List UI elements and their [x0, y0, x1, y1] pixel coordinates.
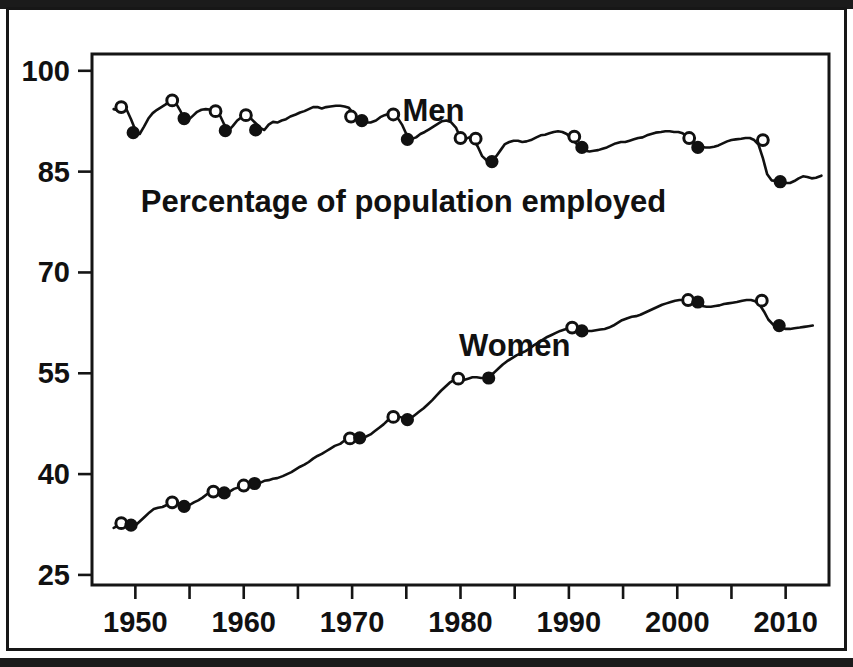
cycle-peak-marker: [455, 133, 466, 144]
cycle-peak-marker: [241, 110, 252, 121]
annotation-percentage-of-population-employed: Percentage of population employed: [141, 184, 666, 219]
cycle-peak-marker: [388, 109, 399, 120]
cycle-peak-marker: [684, 133, 695, 144]
y-axis-tick-label: 25: [38, 559, 70, 591]
cycle-trough-marker: [692, 142, 703, 153]
cycle-trough-marker: [402, 134, 413, 145]
cycle-peak-marker: [757, 135, 768, 146]
cycle-trough-marker: [483, 372, 494, 383]
y-axis-tick-label: 55: [38, 357, 70, 389]
cycle-trough-marker: [219, 487, 230, 498]
cycle-trough-marker: [354, 432, 365, 443]
cycle-trough-marker: [250, 124, 261, 135]
y-axis-tick-label: 40: [38, 458, 70, 490]
cycle-trough-marker: [576, 142, 587, 153]
cycle-peak-marker: [569, 131, 580, 142]
x-axis-tick-label: 2010: [753, 606, 818, 638]
axis-tick-layer: [78, 71, 786, 599]
employment-rate-line-chart: 1008570554025 19501960197019801990200020…: [0, 0, 853, 667]
cycle-trough-marker: [576, 325, 587, 336]
x-axis-tick-labels: 1950196019701980199020002010: [103, 606, 818, 638]
cycle-peak-marker: [167, 497, 178, 508]
cycle-trough-marker: [125, 520, 136, 531]
x-axis-tick-label: 1950: [103, 606, 168, 638]
x-axis-tick-label: 1960: [211, 606, 276, 638]
series-label-men: Men: [402, 93, 464, 128]
cycle-trough-marker: [128, 127, 139, 138]
cycle-trough-marker: [179, 113, 190, 124]
cycle-peak-marker: [208, 486, 219, 497]
x-axis-tick-label: 1970: [320, 606, 385, 638]
x-axis-tick-label: 2000: [645, 606, 710, 638]
x-axis-tick-label: 1990: [537, 606, 602, 638]
series-label-women: Women: [459, 328, 570, 363]
cycle-peak-marker: [756, 295, 767, 306]
cycle-trough-marker: [775, 176, 786, 187]
cycle-trough-marker: [220, 125, 231, 136]
cycle-marker-layer: [116, 95, 786, 531]
cycle-trough-marker: [356, 115, 367, 126]
cycle-peak-marker: [167, 95, 178, 106]
cycle-trough-marker: [486, 156, 497, 167]
cycle-peak-marker: [116, 102, 127, 113]
cycle-trough-marker: [692, 296, 703, 307]
cycle-peak-marker: [470, 133, 481, 144]
cycle-trough-marker: [774, 320, 785, 331]
cycle-peak-marker: [346, 111, 357, 122]
y-axis-tick-label: 100: [22, 55, 70, 87]
figure-container: 1008570554025 19501960197019801990200020…: [0, 0, 853, 667]
y-axis-tick-label: 85: [38, 156, 70, 188]
x-axis-tick-label: 1980: [428, 606, 493, 638]
y-axis-tick-labels: 1008570554025: [22, 55, 70, 591]
cycle-peak-marker: [388, 412, 399, 423]
cycle-trough-marker: [402, 414, 413, 425]
y-axis-tick-label: 70: [38, 256, 70, 288]
cycle-peak-marker: [238, 480, 249, 491]
cycle-peak-marker: [210, 106, 221, 117]
cycle-trough-marker: [249, 478, 260, 489]
cycle-trough-marker: [179, 501, 190, 512]
cycle-peak-marker: [453, 373, 464, 384]
data-series-layer: [114, 100, 822, 527]
